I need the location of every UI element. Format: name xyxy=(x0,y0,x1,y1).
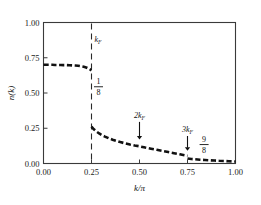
chart-canvas: 0.000.250.500.751.00 0.000.250.500.751.0… xyxy=(0,0,261,205)
svg-text:8: 8 xyxy=(97,88,101,97)
y-tick-label: 0.25 xyxy=(25,123,40,133)
y-tick-label: 0.50 xyxy=(25,88,40,98)
svg-text:8: 8 xyxy=(202,146,206,155)
x-axis-label: k/π xyxy=(134,183,145,193)
y-tick-label: 1.00 xyxy=(25,18,40,28)
svg-text:9: 9 xyxy=(202,135,206,144)
x-tick-label: 0.75 xyxy=(180,167,195,177)
x-tick-label: 0.50 xyxy=(132,167,147,177)
x-tick-label: 1.00 xyxy=(228,167,243,177)
y-tick-label: 0.75 xyxy=(25,53,40,63)
x-tick-label: 0.25 xyxy=(84,167,99,177)
svg-text:1: 1 xyxy=(97,77,101,86)
figure-momentum-distribution: 0.000.250.500.751.00 0.000.250.500.751.0… xyxy=(0,0,261,205)
y-tick-label: 0.00 xyxy=(25,159,40,169)
y-axis-label: n(k) xyxy=(6,86,16,101)
